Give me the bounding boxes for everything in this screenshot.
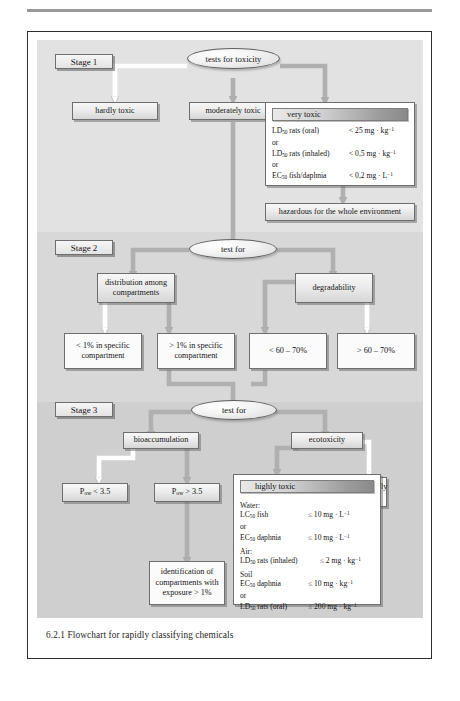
panel-row-value: ≤ 10 mg · L−1 bbox=[302, 510, 374, 521]
panel-group-heading: Water: bbox=[240, 498, 374, 510]
node-pow-less-than-3-5-label: Pow < 3.5 bbox=[80, 487, 111, 498]
stage-tag-2: Stage 2 bbox=[55, 240, 113, 255]
node-gt-60-70pct[interactable]: > 60 – 70% bbox=[337, 333, 415, 369]
panel-row-label: LD50 rats (oral) bbox=[272, 126, 343, 137]
panel-row-label: LD50 rats (inhaled) bbox=[240, 556, 314, 567]
panel-group-rows: EC50 daphnia≤ 10 mg · kg−1orLD50 rats (o… bbox=[240, 579, 374, 613]
node-distribution-among-compartments[interactable]: distribution among compartments bbox=[97, 273, 175, 303]
panel-group-rows: LD50 rats (inhaled)≤ 2 mg · kg−1 bbox=[240, 556, 374, 567]
decision-stage3-test-for-label: test for bbox=[222, 405, 246, 415]
panel-row-or: or bbox=[240, 521, 374, 532]
decision-tests-for-toxicity-label: tests for toxicity bbox=[206, 54, 262, 64]
panel-row: LD50 rats (inhaled)< 0,5 mg · kg−1 bbox=[272, 148, 408, 159]
panel-row-or: or bbox=[272, 137, 408, 148]
figure-frame: Stage 1 tests for toxicity hardly toxic … bbox=[27, 31, 432, 659]
node-pow-greater-than-3-5-label: Pow > 3.5 bbox=[172, 487, 203, 498]
panel-row: LD50 rats (oral)< 25 mg · kg−1 bbox=[272, 126, 408, 137]
figure-caption: 6.2.1 Flowchart for rapidly classifying … bbox=[46, 630, 416, 640]
panel-row-value: ≤ 200 mg · kg−1 bbox=[302, 601, 374, 612]
decision-stage3-test-for[interactable]: test for bbox=[191, 400, 277, 420]
panel-row-label: LD50 rats (inhaled) bbox=[272, 148, 343, 159]
decision-stage2-test-for-label: test for bbox=[221, 244, 245, 254]
node-moderately-toxic[interactable]: moderately toxic bbox=[189, 102, 277, 120]
panel-row-label: EC50 fish/daphnia bbox=[272, 170, 343, 181]
panel-row: LD50 rats (inhaled)≤ 2 mg · kg−1 bbox=[240, 556, 374, 567]
decision-stage2-test-for[interactable]: test for bbox=[189, 239, 277, 259]
node-lt-1pct-compartment-label: < 1% in specific compartment bbox=[68, 341, 138, 362]
panel-row-value: < 25 mg · kg−1 bbox=[343, 126, 408, 137]
panel-row-label: LC50 fish bbox=[240, 510, 302, 521]
panel-row-value: < 0,5 mg · kg−1 bbox=[343, 148, 408, 159]
node-hardly-toxic-label: hardly toxic bbox=[95, 106, 134, 117]
node-lt-1pct-compartment[interactable]: < 1% in specific compartment bbox=[64, 333, 142, 369]
node-moderately-toxic-label: moderately toxic bbox=[205, 106, 260, 117]
panel-row-or-text: or bbox=[272, 160, 408, 171]
panel-group-rows: LC50 fish≤ 10 mg · L−1orEC50 daphnia≤ 10… bbox=[240, 510, 374, 544]
panel-very-toxic-title: very toxic bbox=[272, 108, 408, 121]
panel-row-value: ≤ 10 mg · L−1 bbox=[302, 532, 374, 543]
panel-row-label: EC50 daphnia bbox=[240, 579, 302, 590]
stage-tag-3-label: Stage 3 bbox=[71, 405, 98, 415]
page-top-rule bbox=[27, 9, 432, 12]
panel-row: EC50 daphnia≤ 10 mg · L−1 bbox=[240, 532, 374, 543]
node-pow-less-than-3-5[interactable]: Pow < 3.5 bbox=[62, 483, 128, 502]
stage-tag-3: Stage 3 bbox=[55, 402, 113, 417]
node-gt-1pct-compartment-label: > 1% in specific compartment bbox=[161, 341, 231, 362]
panel-very-toxic[interactable]: very toxic LD50 rats (oral)< 25 mg · kg−… bbox=[265, 102, 415, 186]
node-hazardous-whole-environment[interactable]: hazardous for the whole environment bbox=[265, 203, 415, 221]
panel-group-heading: Soil bbox=[240, 567, 374, 579]
panel-row-or-text: or bbox=[240, 521, 374, 532]
panel-highly-toxic-title-label: highly toxic bbox=[255, 482, 295, 491]
panel-row-value: < 0,2 mg · L−1 bbox=[343, 170, 408, 181]
panel-group-heading: Air: bbox=[240, 544, 374, 556]
stage-tag-1-label: Stage 1 bbox=[71, 57, 98, 67]
panel-row-or: or bbox=[240, 590, 374, 601]
panel-row-label: LD50 rats (oral) bbox=[240, 601, 302, 612]
node-gt-60-70pct-label: > 60 – 70% bbox=[357, 346, 395, 357]
node-distribution-among-compartments-label: distribution among compartments bbox=[101, 278, 171, 299]
node-bioaccumulation-label: bioaccumulation bbox=[134, 435, 189, 446]
node-ecotoxicity-label: ecotoxicity bbox=[309, 435, 345, 446]
panel-highly-toxic[interactable]: highly toxic Water:LC50 fish≤ 10 mg · L−… bbox=[233, 474, 381, 605]
node-lt-60-70pct-label: < 60 – 70% bbox=[269, 346, 307, 357]
node-bioaccumulation[interactable]: bioaccumulation bbox=[123, 432, 199, 449]
node-degradability[interactable]: degradability bbox=[295, 273, 373, 303]
panel-row-or-text: or bbox=[240, 590, 374, 601]
decision-tests-for-toxicity[interactable]: tests for toxicity bbox=[187, 48, 280, 69]
panel-row: EC50 fish/daphnia< 0,2 mg · L−1 bbox=[272, 170, 408, 181]
panel-highly-toxic-groups: Water:LC50 fish≤ 10 mg · L−1orEC50 daphn… bbox=[240, 498, 374, 613]
panel-row: LD50 rats (oral)≤ 200 mg · kg−1 bbox=[240, 601, 374, 612]
figure-caption-text: 6.2.1 Flowchart for rapidly classifying … bbox=[46, 630, 233, 640]
node-pow-greater-than-3-5[interactable]: Pow > 3.5 bbox=[154, 483, 220, 502]
panel-row-or-text: or bbox=[272, 137, 408, 148]
flowchart-canvas: Stage 1 tests for toxicity hardly toxic … bbox=[37, 40, 423, 618]
panel-row-or: or bbox=[272, 160, 408, 171]
panel-highly-toxic-title: highly toxic bbox=[240, 480, 374, 493]
panel-row-value: ≤ 2 mg · kg−1 bbox=[314, 556, 374, 567]
panel-very-toxic-title-label: very toxic bbox=[287, 110, 321, 119]
node-ecotoxicity[interactable]: ecotoxicity bbox=[291, 432, 363, 449]
node-degradability-label: degradability bbox=[312, 283, 355, 294]
stage-tag-1: Stage 1 bbox=[55, 54, 113, 69]
node-hardly-toxic[interactable]: hardly toxic bbox=[72, 102, 158, 120]
node-hazardous-whole-environment-label: hazardous for the whole environment bbox=[279, 207, 401, 218]
panel-row: LC50 fish≤ 10 mg · L−1 bbox=[240, 510, 374, 521]
node-identification-of-compartments-label: identification of compartments with expo… bbox=[153, 567, 221, 599]
panel-row: EC50 daphnia≤ 10 mg · kg−1 bbox=[240, 579, 374, 590]
node-identification-of-compartments[interactable]: identification of compartments with expo… bbox=[149, 561, 225, 605]
stage-tag-2-label: Stage 2 bbox=[71, 243, 98, 253]
panel-very-toxic-rows: LD50 rats (oral)< 25 mg · kg−1orLD50 rat… bbox=[272, 126, 408, 182]
node-lt-60-70pct[interactable]: < 60 – 70% bbox=[249, 333, 327, 369]
node-gt-1pct-compartment[interactable]: > 1% in specific compartment bbox=[157, 333, 235, 369]
panel-row-label: EC50 daphnia bbox=[240, 532, 302, 543]
panel-row-value: ≤ 10 mg · kg−1 bbox=[302, 579, 374, 590]
